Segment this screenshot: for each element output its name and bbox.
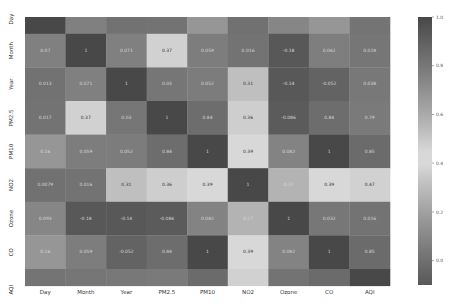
y-tick-label: CO — [8, 247, 14, 256]
cell-value-label: 1 — [328, 249, 331, 254]
y-tick-label: PM10 — [8, 143, 14, 159]
colorbar-tick-label: 0.6 — [436, 112, 443, 117]
colorbar-tick-label: 0.8 — [436, 63, 443, 68]
cell-value-label: 0.028 — [363, 48, 376, 53]
x-tick-label: Day — [40, 289, 52, 296]
cell-value-label: -0.052 — [119, 249, 134, 254]
cell-value-label: 0.052 — [201, 81, 214, 86]
heatmap-cell — [25, 269, 66, 286]
y-tick-label: AQI — [8, 285, 14, 295]
colorbar-tick-label: 0.2 — [436, 210, 443, 215]
x-axis-ticks: DayMonthYearPM2.5PM10NO2OzoneCOAQI — [40, 289, 375, 296]
cell-value-label: -0.18 — [80, 216, 92, 221]
cell-value-label: -0.086 — [281, 115, 296, 120]
cell-value-label: 0.84 — [162, 149, 172, 154]
cell-value-label: 0.39 — [243, 149, 253, 154]
cell-value-label: 0.017 — [39, 115, 52, 120]
cell-value-label: 0.39 — [243, 249, 253, 254]
heatmap-cell — [268, 269, 309, 286]
cell-value-label: 1 — [84, 48, 87, 53]
cell-value-label: 0.059 — [201, 48, 214, 53]
colorbar-tick-label: 0.0 — [436, 258, 443, 263]
cell-value-label: 0.16 — [40, 149, 50, 154]
cell-value-label: 0.093 — [39, 216, 52, 221]
cell-value-label: 0.07 — [40, 48, 50, 53]
cell-value-label: 0.36 — [162, 182, 172, 187]
cell-value-label: 0.082 — [282, 149, 295, 154]
cell-value-label: 0.0079 — [37, 182, 53, 187]
y-tick-label: Day — [8, 13, 15, 25]
heatmap-cell — [106, 269, 147, 286]
cell-value-label: 0.37 — [162, 48, 172, 53]
y-tick-label: NO2 — [8, 179, 14, 191]
cell-value-label: 1 — [125, 81, 128, 86]
cell-value-label: 0.85 — [365, 149, 375, 154]
cell-value-label: 1 — [287, 216, 290, 221]
heatmap-cell — [228, 17, 269, 34]
cell-value-label: -0.14 — [283, 81, 295, 86]
x-tick-label: PM10 — [200, 289, 216, 295]
cell-value-label: 0.27 — [284, 182, 294, 187]
cell-value-label: 1 — [247, 182, 250, 187]
cell-value-label: 0.059 — [79, 249, 92, 254]
cell-value-label: 1 — [206, 249, 209, 254]
cell-value-label: 0.84 — [324, 115, 334, 120]
cell-value-label: 0.39 — [324, 182, 334, 187]
cell-value-label: 0.37 — [81, 115, 91, 120]
correlation-heatmap: 0.0710.0710.370.0590.016-0.180.0610.0280… — [0, 0, 454, 304]
heatmap-cell — [228, 269, 269, 286]
cell-value-label: 1 — [328, 149, 331, 154]
cell-value-label: 0.071 — [79, 81, 92, 86]
heatmap-cells: 0.0710.0710.370.0590.016-0.180.0610.0280… — [25, 17, 390, 286]
heatmap-cell — [25, 17, 66, 34]
cell-value-label: 0.016 — [242, 48, 255, 53]
cell-value-label: 0.36 — [243, 115, 253, 120]
cell-value-label: 0.038 — [363, 81, 376, 86]
cell-value-label: 1 — [206, 149, 209, 154]
heatmap-cell — [66, 269, 107, 286]
colorbar: 1.00.80.60.40.20.0 — [418, 15, 443, 285]
x-tick-label: AQI — [365, 289, 375, 295]
cell-value-label: 0.016 — [363, 216, 376, 221]
cell-value-label: 0.016 — [79, 182, 92, 187]
y-tick-label: Year — [8, 78, 14, 91]
cell-value-label: 0.47 — [365, 182, 375, 187]
cell-value-label: 0.071 — [120, 48, 133, 53]
cell-value-label: -0.086 — [160, 216, 175, 221]
cell-value-label: 0.16 — [40, 249, 50, 254]
x-tick-label: Month — [77, 289, 95, 295]
cell-value-label: 0.84 — [202, 115, 212, 120]
cell-value-label: 0.84 — [162, 249, 172, 254]
heatmap-cell — [187, 17, 228, 34]
x-tick-label: Ozone — [280, 289, 298, 295]
x-tick-label: Year — [120, 289, 133, 295]
cell-value-label: 0.31 — [243, 81, 253, 86]
y-axis-ticks: DayMonthYearPM2.5PM10NO2OzoneCOAQI — [8, 13, 15, 295]
cell-value-label: -0.18 — [283, 48, 295, 53]
cell-value-label: -0.14 — [121, 216, 133, 221]
colorbar-gradient — [418, 17, 432, 285]
y-tick-label: Ozone — [8, 209, 14, 227]
heatmap-cell — [309, 269, 350, 286]
heatmap-cell — [147, 17, 188, 34]
heatmap-cell — [66, 17, 107, 34]
cell-value-label: 0.03 — [162, 81, 172, 86]
cell-value-label: 0.85 — [365, 249, 375, 254]
cell-value-label: -0.052 — [322, 81, 337, 86]
cell-value-label: 0.061 — [323, 48, 336, 53]
cell-value-label: 0.082 — [282, 249, 295, 254]
heatmap-cell — [187, 269, 228, 286]
x-tick-label: CO — [325, 289, 334, 295]
cell-value-label: 0.79 — [365, 115, 375, 120]
heatmap-cell — [147, 269, 188, 286]
cell-value-label: 0.082 — [201, 216, 214, 221]
y-tick-label: Month — [8, 41, 14, 59]
cell-value-label: 0.059 — [79, 149, 92, 154]
x-tick-label: PM2.5 — [159, 289, 176, 295]
heatmap-cell — [349, 17, 390, 34]
colorbar-tick-label: 1.0 — [436, 15, 443, 20]
heatmap-cell — [349, 269, 390, 286]
cell-value-label: 1 — [166, 115, 169, 120]
cell-value-label: 0.39 — [202, 182, 212, 187]
x-tick-label: NO2 — [242, 289, 254, 295]
